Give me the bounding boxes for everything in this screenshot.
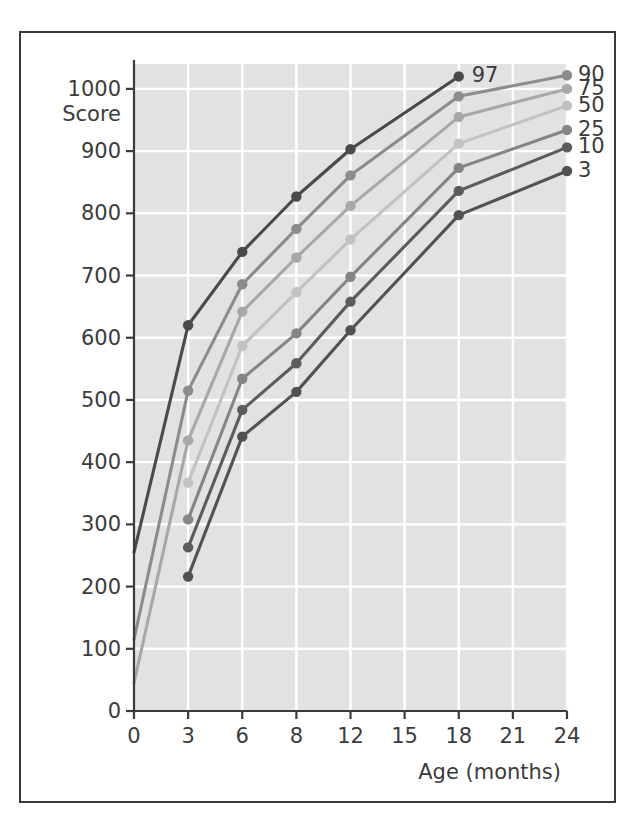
legend: 90755025103 [562, 62, 605, 182]
data-point [291, 224, 301, 234]
legend-marker-25 [562, 125, 572, 135]
y-axis-label: Score [62, 102, 121, 126]
figure-frame: 9075502510397010020030040050060070080090… [19, 31, 616, 803]
data-point [237, 374, 247, 384]
data-point [345, 296, 355, 306]
x-tick-label: 6 [236, 724, 249, 748]
y-axis: 01002003004005006007008009001000 [68, 77, 134, 723]
legend-marker-75 [562, 84, 572, 94]
x-tick-label: 21 [500, 724, 527, 748]
y-tick-label: 300 [81, 512, 121, 536]
y-tick-label: 700 [81, 264, 121, 288]
y-tick-label: 500 [81, 388, 121, 412]
x-tick-label: 3 [181, 724, 194, 748]
data-point [345, 234, 355, 244]
annotation-97: 97 [472, 63, 499, 87]
data-point [183, 542, 193, 552]
data-point [183, 320, 193, 330]
y-tick-label: 400 [81, 450, 121, 474]
data-point [183, 435, 193, 445]
data-point [345, 170, 355, 180]
data-point [237, 247, 247, 257]
data-point [237, 341, 247, 351]
x-tick-label: 24 [554, 724, 581, 748]
y-tick-label: 1000 [68, 77, 121, 101]
data-point [454, 186, 464, 196]
data-point [291, 328, 301, 338]
data-point [291, 387, 301, 397]
legend-marker-50 [562, 100, 572, 110]
legend-marker-90 [562, 70, 572, 80]
data-point [454, 112, 464, 122]
y-tick-label: 800 [81, 201, 121, 225]
x-axis-label: Age (months) [418, 760, 561, 784]
growth-percentile-chart: 9075502510397010020030040050060070080090… [21, 33, 614, 801]
y-tick-label: 0 [108, 699, 121, 723]
x-tick-label: 15 [391, 724, 418, 748]
x-tick-label: 18 [445, 724, 472, 748]
data-point [345, 325, 355, 335]
data-point [291, 287, 301, 297]
data-point [291, 252, 301, 262]
data-point [183, 477, 193, 487]
data-point [454, 71, 464, 81]
x-tick-label: 8 [290, 724, 303, 748]
data-point [237, 405, 247, 415]
x-tick-label: 0 [127, 724, 140, 748]
data-point [454, 163, 464, 173]
data-point [454, 91, 464, 101]
y-tick-label: 100 [81, 637, 121, 661]
legend-marker-10 [562, 142, 572, 152]
data-point [183, 514, 193, 524]
x-axis: 03681215182124 [127, 711, 580, 748]
data-point [237, 279, 247, 289]
data-point [454, 210, 464, 220]
data-point [237, 431, 247, 441]
y-tick-label: 600 [81, 326, 121, 350]
data-point [345, 272, 355, 282]
data-point [454, 138, 464, 148]
x-tick-label: 12 [337, 724, 364, 748]
legend-label-3: 3 [578, 158, 591, 182]
legend-label-50: 50 [578, 93, 605, 117]
y-tick-label: 900 [81, 139, 121, 163]
data-point [345, 201, 355, 211]
data-point [237, 306, 247, 316]
legend-marker-3 [562, 166, 572, 176]
data-point [183, 385, 193, 395]
legend-label-10: 10 [578, 134, 605, 158]
data-point [291, 191, 301, 201]
data-point [345, 144, 355, 154]
chart-canvas: 9075502510397010020030040050060070080090… [21, 33, 613, 800]
data-point [291, 358, 301, 368]
data-point [183, 571, 193, 581]
y-tick-label: 200 [81, 575, 121, 599]
